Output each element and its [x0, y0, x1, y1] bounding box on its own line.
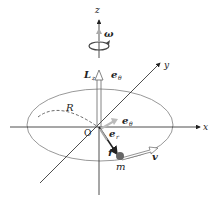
- angular-momentum-vector: [95, 70, 103, 127]
- e-r-subscript: r: [116, 133, 120, 140]
- mass-label: m: [116, 161, 125, 172]
- radius-label: R: [65, 102, 74, 113]
- y-axis: [40, 63, 160, 183]
- x-axis-label: x: [203, 122, 208, 132]
- e-theta-label: e: [122, 115, 128, 126]
- e-theta-subscript: θ: [129, 120, 133, 127]
- e-theta-top-subscript: θ: [118, 74, 122, 81]
- angular-momentum-label: L: [83, 69, 91, 80]
- mass-ball: [116, 152, 124, 160]
- y-axis-label: y: [163, 60, 170, 70]
- z-axis-label: z: [94, 5, 100, 15]
- position-vector-label: r: [108, 147, 114, 158]
- e-r-label: e: [109, 128, 115, 139]
- e-theta-top-label: e: [111, 69, 117, 80]
- origin-label: O: [84, 128, 91, 138]
- velocity-label: v: [152, 151, 158, 162]
- diagram-canvas: z ω L z e θ y x R O e θ e r r v m: [0, 0, 220, 205]
- omega-label: ω: [104, 28, 114, 39]
- unit-vector-r-arrow: [100, 129, 107, 140]
